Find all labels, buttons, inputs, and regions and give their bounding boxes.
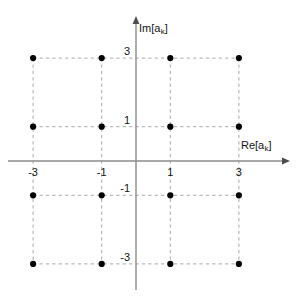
- x-axis-arrowhead: [282, 158, 290, 165]
- y-axis-label: Im[ak]: [139, 22, 168, 36]
- constellation-point: [30, 124, 36, 130]
- x-axis-label-text: Re[a: [241, 139, 264, 151]
- constellation-point: [167, 124, 173, 130]
- x-tick-label: 1: [150, 166, 190, 178]
- y-tick-label: -3: [90, 251, 130, 263]
- constellation-point: [167, 55, 173, 61]
- constellation-point: [236, 261, 242, 267]
- constellation-figure: Im[ak] Re[ak] -3-11331-1-3: [0, 0, 300, 300]
- x-tick-label: 3: [219, 166, 259, 178]
- constellation-point: [167, 261, 173, 267]
- x-tick-label: -1: [82, 166, 122, 178]
- y-tick-label: 1: [90, 114, 130, 126]
- constellation-point: [30, 192, 36, 198]
- y-axis-label-text: Im[a: [139, 22, 160, 34]
- constellation-point: [236, 192, 242, 198]
- constellation-point: [167, 192, 173, 198]
- y-tick-label: 3: [90, 45, 130, 57]
- constellation-point: [236, 124, 242, 130]
- x-tick-label: -3: [13, 166, 53, 178]
- constellation-point: [236, 55, 242, 61]
- x-axis-label: Re[ak]: [241, 139, 272, 153]
- constellation-point: [30, 261, 36, 267]
- y-axis-label-close: ]: [165, 22, 168, 34]
- y-tick-label: -1: [90, 182, 130, 194]
- constellation-point: [30, 55, 36, 61]
- x-axis-label-close: ]: [269, 139, 272, 151]
